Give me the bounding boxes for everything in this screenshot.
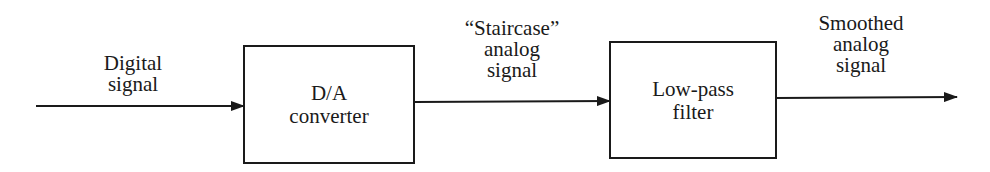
staircase-signal-label-line-3: signal	[455, 60, 569, 81]
output-signal-label: Smoothed analog signal	[808, 13, 914, 76]
staircase-signal-label-line-1: “Staircase”	[455, 18, 569, 39]
input-signal-label: Digital signal	[92, 53, 174, 95]
da-converter-label-line-2: converter	[244, 105, 414, 128]
output-signal-label-line-3: signal	[808, 55, 914, 76]
da-converter-label: D/A converter	[244, 82, 414, 128]
staircase-signal-label-line-2: analog	[455, 39, 569, 60]
input-signal-label-line-2: signal	[92, 74, 174, 95]
low-pass-filter-label: Low-pass filter	[610, 78, 776, 124]
da-converter-label-line-1: D/A	[244, 82, 414, 105]
input-signal-label-line-1: Digital	[92, 53, 174, 74]
output-signal-label-line-2: analog	[808, 34, 914, 55]
output-signal-arrow	[776, 97, 957, 98]
low-pass-filter-label-line-2: filter	[610, 101, 776, 124]
staircase-signal-arrow	[414, 101, 610, 102]
low-pass-filter-label-line-1: Low-pass	[610, 78, 776, 101]
output-signal-label-line-1: Smoothed	[808, 13, 914, 34]
staircase-signal-label: “Staircase” analog signal	[455, 18, 569, 81]
